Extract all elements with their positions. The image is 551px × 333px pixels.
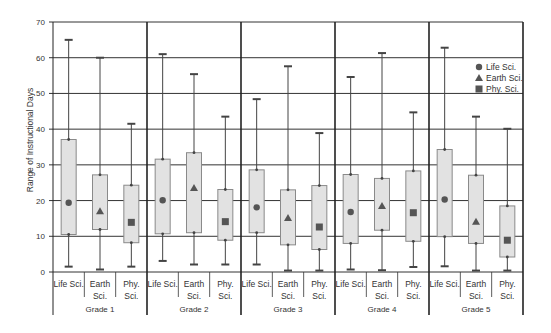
box-grade-5-earth-sci bbox=[469, 117, 484, 271]
q1-dot bbox=[443, 235, 446, 238]
x-category-label: Life Sci. bbox=[430, 279, 460, 289]
y-tick-label: 10 bbox=[36, 232, 45, 241]
x-category-label: Earth bbox=[184, 279, 205, 289]
x-group-label: Grade 1 bbox=[86, 305, 115, 314]
q1-dot bbox=[475, 242, 478, 245]
box bbox=[437, 150, 452, 237]
x-category-label: Sci. bbox=[406, 291, 420, 301]
q1-dot bbox=[287, 243, 290, 246]
q1-dot bbox=[506, 256, 509, 259]
x-category-label: Phy. bbox=[499, 279, 515, 289]
square-marker-icon bbox=[316, 224, 323, 231]
box bbox=[187, 153, 202, 233]
q3-dot bbox=[130, 184, 133, 187]
q3-dot bbox=[443, 148, 446, 151]
y-tick-label: 0 bbox=[41, 268, 46, 277]
box-grade-5-phy-sci bbox=[500, 129, 515, 271]
q1-dot bbox=[412, 240, 415, 243]
x-category-label: Life Sci. bbox=[148, 279, 178, 289]
x-group-label: Grade 5 bbox=[462, 305, 491, 314]
legend-entry-label: Earth Sci. bbox=[486, 73, 523, 83]
box bbox=[249, 170, 264, 233]
y-tick-label: 20 bbox=[36, 197, 45, 206]
x-category-label: Earth bbox=[372, 279, 393, 289]
q3-dot bbox=[287, 188, 290, 191]
x-category-label: Phy. bbox=[405, 279, 421, 289]
q3-dot bbox=[318, 184, 321, 187]
square-marker-icon bbox=[410, 209, 417, 216]
box-grade-1-phy-sci bbox=[124, 124, 139, 267]
legend: Life Sci.Earth Sci.Phy. Sci. bbox=[475, 62, 523, 94]
x-category-label: Earth bbox=[278, 279, 299, 289]
box bbox=[469, 175, 484, 243]
circle-marker-icon bbox=[476, 64, 482, 70]
box-grade-3-earth-sci bbox=[281, 66, 296, 270]
q3-dot bbox=[224, 188, 227, 191]
x-category-label: Life Sci. bbox=[242, 279, 272, 289]
x-group-label: Grade 2 bbox=[180, 305, 209, 314]
box-grade-3-life-sci bbox=[249, 99, 264, 264]
x-axis-labels: Life Sci.EarthSci.Phy.Sci.Grade 1Life Sc… bbox=[54, 279, 516, 314]
square-marker-icon bbox=[504, 237, 511, 244]
box bbox=[500, 206, 515, 257]
box bbox=[218, 190, 233, 241]
q3-dot bbox=[381, 177, 384, 180]
box-grade-2-life-sci bbox=[155, 54, 170, 261]
q1-dot bbox=[161, 232, 164, 235]
x-category-label: Phy. bbox=[217, 279, 233, 289]
y-axis-ticks: 010203040506070 bbox=[36, 18, 45, 277]
legend-entry-label: Life Sci. bbox=[486, 62, 516, 72]
square-marker-icon bbox=[476, 86, 483, 93]
q3-dot bbox=[99, 173, 102, 176]
q3-dot bbox=[193, 151, 196, 154]
x-category-label: Sci. bbox=[218, 291, 232, 301]
circle-marker-icon bbox=[65, 200, 71, 206]
box bbox=[312, 186, 327, 250]
x-group-label: Grade 3 bbox=[274, 305, 303, 314]
box-grade-1-earth-sci bbox=[93, 58, 108, 270]
x-category-label: Sci. bbox=[469, 291, 483, 301]
x-category-label: Sci. bbox=[124, 291, 138, 301]
box-grade-4-earth-sci bbox=[375, 53, 390, 270]
q1-dot bbox=[224, 239, 227, 242]
boxes bbox=[61, 40, 515, 271]
box-grade-2-phy-sci bbox=[218, 117, 233, 265]
x-category-label: Earth bbox=[90, 279, 111, 289]
q3-dot bbox=[475, 174, 478, 177]
circle-marker-icon bbox=[347, 209, 353, 215]
box bbox=[61, 140, 76, 235]
box bbox=[124, 185, 139, 243]
x-group-label: Grade 4 bbox=[368, 305, 397, 314]
q1-dot bbox=[193, 231, 196, 234]
y-tick-label: 50 bbox=[36, 89, 45, 98]
x-category-label: Life Sci. bbox=[54, 279, 84, 289]
q1-dot bbox=[318, 248, 321, 251]
q1-dot bbox=[67, 233, 70, 236]
square-marker-icon bbox=[222, 218, 229, 225]
box-grade-4-life-sci bbox=[343, 77, 358, 270]
y-tick-label: 30 bbox=[36, 161, 45, 170]
box bbox=[406, 171, 421, 241]
q3-dot bbox=[161, 158, 164, 161]
q1-dot bbox=[381, 229, 384, 232]
q1-dot bbox=[255, 231, 258, 234]
x-category-label: Sci. bbox=[281, 291, 295, 301]
q3-dot bbox=[255, 168, 258, 171]
box bbox=[93, 175, 108, 230]
group-dividers bbox=[84, 22, 523, 315]
q1-dot bbox=[130, 241, 133, 244]
circle-marker-icon bbox=[159, 197, 165, 203]
x-category-label: Sci. bbox=[500, 291, 514, 301]
y-tick-label: 60 bbox=[36, 54, 45, 63]
square-marker-icon bbox=[128, 219, 135, 226]
q1-dot bbox=[99, 228, 102, 231]
x-category-label: Phy. bbox=[311, 279, 327, 289]
y-axis-label: Range of Instructional Days bbox=[25, 88, 35, 192]
x-category-label: Sci. bbox=[93, 291, 107, 301]
box bbox=[155, 159, 170, 234]
y-tick-label: 70 bbox=[36, 18, 45, 27]
x-category-label: Life Sci. bbox=[336, 279, 366, 289]
box-grade-4-phy-sci bbox=[406, 112, 421, 267]
q3-dot bbox=[412, 170, 415, 173]
circle-marker-icon bbox=[253, 204, 259, 210]
